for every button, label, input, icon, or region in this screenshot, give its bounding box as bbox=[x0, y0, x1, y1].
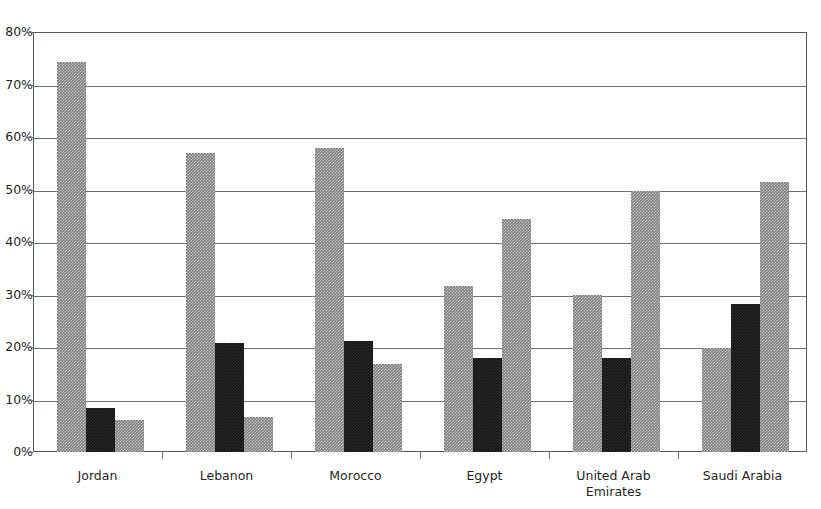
bar bbox=[344, 341, 373, 452]
x-axis-category-label: Morocco bbox=[291, 468, 420, 484]
x-axis-category-label-line: Emirates bbox=[549, 484, 678, 500]
bar bbox=[373, 364, 402, 452]
bar-chart: 0%10%20%30%40%50%60%70%80% JordanLebanon… bbox=[0, 0, 821, 509]
bar bbox=[702, 348, 731, 452]
x-axis-tick-mark bbox=[162, 452, 163, 459]
x-axis-category-label: Egypt bbox=[420, 468, 549, 484]
bar bbox=[502, 219, 531, 452]
x-axis-category-label: United ArabEmirates bbox=[549, 468, 678, 500]
x-axis-category-label: Jordan bbox=[33, 468, 162, 484]
bar bbox=[731, 304, 760, 452]
bars-layer bbox=[33, 32, 807, 452]
x-axis-category-label-line: Morocco bbox=[291, 468, 420, 484]
bar bbox=[244, 417, 273, 452]
bar bbox=[444, 286, 473, 452]
x-axis-category-label-line: Lebanon bbox=[162, 468, 291, 484]
x-axis-category-label-line: Egypt bbox=[420, 468, 549, 484]
x-axis-tick-mark bbox=[549, 452, 550, 459]
bar bbox=[57, 62, 86, 452]
bar bbox=[315, 148, 344, 453]
x-axis-tick-mark bbox=[420, 452, 421, 459]
x-axis-category-label-line: Jordan bbox=[33, 468, 162, 484]
bar bbox=[86, 408, 115, 452]
bar bbox=[115, 420, 144, 452]
y-axis: 0%10%20%30%40%50%60%70%80% bbox=[0, 0, 33, 509]
x-axis-category-label: Saudi Arabia bbox=[678, 468, 807, 484]
bar bbox=[215, 343, 244, 452]
bar bbox=[760, 182, 789, 452]
x-axis-category-label-line: Saudi Arabia bbox=[678, 468, 807, 484]
x-axis-tick-mark bbox=[291, 452, 292, 459]
bar bbox=[573, 295, 602, 453]
x-axis-category-label-line: United Arab bbox=[549, 468, 678, 484]
bar bbox=[473, 358, 502, 453]
bar bbox=[631, 191, 660, 452]
x-axis-tick-mark bbox=[678, 452, 679, 459]
bar bbox=[602, 358, 631, 453]
x-axis-category-label: Lebanon bbox=[162, 468, 291, 484]
y-axis-tick-mark bbox=[27, 452, 33, 453]
bar bbox=[186, 153, 215, 452]
